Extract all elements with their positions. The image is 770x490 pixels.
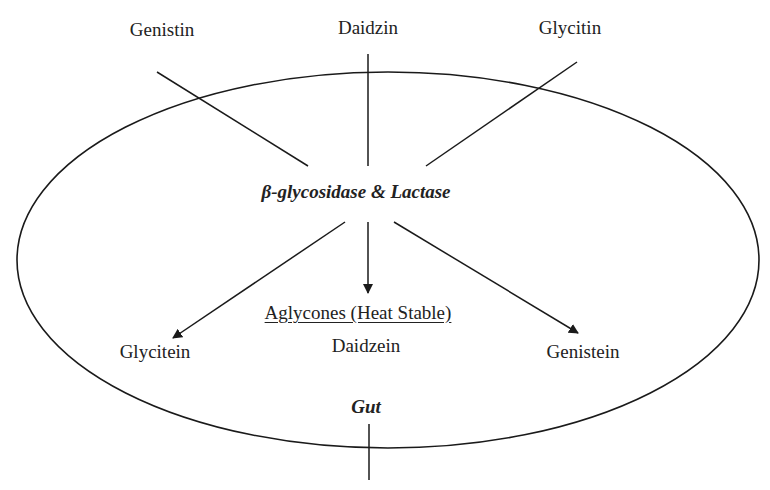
aglycone-glycitein-label: Glycitein	[120, 342, 191, 361]
genistin-line	[157, 72, 308, 166]
gut-ellipse	[17, 72, 759, 448]
gut-label: Gut	[351, 397, 381, 416]
aglycone-genistein-label: Genistein	[547, 342, 620, 361]
glycitin-line	[426, 62, 577, 166]
aglycone-daidzein-label: Daidzein	[332, 336, 401, 355]
diagram-canvas	[0, 0, 770, 490]
aglycones-heading: Aglycones (Heat Stable)	[265, 303, 452, 322]
glycoside-glycitin-label: Glycitin	[539, 18, 601, 37]
enzyme-label: β-glycosidase & Lactase	[261, 182, 450, 201]
glycoside-genistin-label: Genistin	[130, 20, 194, 39]
glycoside-daidzin-label: Daidzin	[338, 18, 398, 37]
